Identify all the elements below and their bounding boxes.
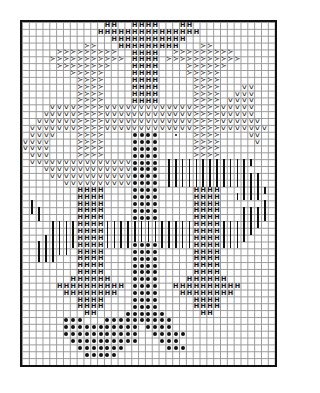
dot-stitch-symbol bbox=[131, 338, 138, 345]
dot-stitch-symbol bbox=[138, 242, 145, 249]
h-stitch-symbol: H bbox=[70, 290, 77, 297]
bar-stitch-symbol bbox=[248, 228, 255, 235]
dot-stitch-symbol bbox=[131, 145, 138, 152]
dot-stitch-symbol bbox=[70, 324, 77, 331]
dot-stitch-symbol bbox=[84, 351, 91, 358]
dot-stitch-symbol bbox=[131, 194, 138, 201]
dot-stitch-symbol bbox=[145, 159, 152, 166]
dot-stitch-symbol bbox=[125, 324, 132, 331]
h-stitch-symbol: H bbox=[186, 29, 193, 36]
dot-stitch-symbol bbox=[131, 248, 138, 255]
dot-stitch-symbol bbox=[145, 310, 152, 317]
dot-stitch-symbol bbox=[145, 269, 152, 276]
dot-stitch-symbol bbox=[145, 187, 152, 194]
dot-stitch-symbol bbox=[104, 351, 111, 358]
bar-stitch-symbol bbox=[234, 180, 241, 187]
dot-stitch-symbol bbox=[152, 152, 159, 159]
bar-stitch-symbol bbox=[186, 180, 193, 187]
dot-stitch-symbol bbox=[159, 310, 166, 317]
dot-stitch-symbol bbox=[63, 317, 70, 324]
dot-stitch-symbol bbox=[111, 317, 118, 324]
dot-stitch-symbol bbox=[166, 331, 173, 338]
dot-stitch-symbol bbox=[138, 303, 145, 310]
h-stitch-symbol: H bbox=[234, 283, 241, 290]
dot-stitch-symbol bbox=[90, 344, 97, 351]
bar-stitch-symbol bbox=[179, 180, 186, 187]
h-stitch-symbol: H bbox=[97, 29, 104, 36]
bar-stitch-symbol bbox=[254, 194, 261, 201]
dot-stitch-symbol bbox=[145, 290, 152, 297]
dot-stitch-symbol bbox=[111, 344, 118, 351]
dot-stitch-symbol bbox=[145, 255, 152, 262]
dot-stitch-symbol bbox=[145, 303, 152, 310]
h-stitch-symbol: H bbox=[111, 36, 118, 43]
dot-stitch-symbol bbox=[138, 248, 145, 255]
dot-stitch-symbol bbox=[131, 262, 138, 269]
dot-stitch-symbol bbox=[90, 351, 97, 358]
h-stitch-symbol: H bbox=[118, 43, 125, 50]
dot-stitch-symbol bbox=[152, 303, 159, 310]
bar-stitch-symbol bbox=[145, 235, 152, 242]
dot-stitch-symbol bbox=[131, 276, 138, 283]
dot-stitch-symbol bbox=[138, 152, 145, 159]
v-stitch-symbol: v bbox=[254, 139, 262, 146]
dot-stitch-symbol bbox=[84, 324, 91, 331]
dot-stitch-symbol bbox=[145, 276, 152, 283]
dot-stitch-symbol bbox=[166, 317, 173, 324]
dot-stitch-symbol bbox=[145, 242, 152, 249]
bar-stitch-symbol bbox=[220, 180, 227, 187]
dot-stitch-symbol bbox=[159, 324, 166, 331]
dot-stitch-symbol bbox=[111, 338, 118, 345]
chevron-stitch-symbol: ≻ bbox=[166, 56, 173, 63]
dot-stitch-symbol bbox=[131, 242, 138, 249]
chevron-stitch-symbol: ≻ bbox=[104, 63, 111, 70]
chevron-stitch-symbol: ≻ bbox=[63, 63, 70, 70]
chevron-stitch-symbol: ≻ bbox=[186, 70, 193, 77]
dot-stitch-symbol bbox=[111, 331, 118, 338]
dot-stitch-symbol bbox=[159, 317, 166, 324]
h-stitch-symbol: H bbox=[56, 283, 63, 290]
dot-stitch-symbol bbox=[152, 194, 159, 201]
dot-stitch-symbol bbox=[145, 180, 152, 187]
dot-stitch-symbol bbox=[152, 242, 159, 249]
dot-stitch-symbol bbox=[145, 194, 152, 201]
bar-stitch-symbol bbox=[248, 159, 255, 166]
bar-stitch-symbol bbox=[186, 242, 193, 249]
dot-stitch-symbol bbox=[97, 331, 104, 338]
dot-stitch-symbol bbox=[138, 317, 145, 324]
dot-stitch-symbol bbox=[63, 324, 70, 331]
bar-stitch-symbol bbox=[172, 180, 179, 187]
h-stitch-symbol: H bbox=[213, 303, 220, 310]
dot-stitch-symbol bbox=[118, 338, 125, 345]
dot-stitch-symbol bbox=[131, 187, 138, 194]
h-stitch-symbol: H bbox=[97, 303, 104, 310]
bar-stitch-symbol bbox=[70, 242, 77, 249]
dot-stitch-symbol bbox=[152, 262, 159, 269]
dot-stitch-symbol bbox=[152, 276, 159, 283]
dot-stitch-symbol bbox=[145, 152, 152, 159]
bar-stitch-symbol bbox=[172, 242, 179, 249]
dot-stitch-symbol bbox=[97, 351, 104, 358]
bar-stitch-symbol bbox=[261, 214, 268, 221]
chevron-stitch-symbol: ≻ bbox=[227, 56, 234, 63]
v-stitch-symbol: v bbox=[49, 132, 57, 139]
dot-stitch-symbol bbox=[138, 194, 145, 201]
dot-stitch-symbol bbox=[152, 255, 159, 262]
h-stitch-symbol: H bbox=[118, 283, 125, 290]
chevron-stitch-symbol: ≻ bbox=[220, 63, 227, 70]
dot-stitch-symbol bbox=[152, 310, 159, 317]
bar-stitch-symbol bbox=[227, 242, 234, 249]
dot-stitch-symbol bbox=[111, 351, 118, 358]
dot-stitch-symbol bbox=[138, 139, 145, 146]
dot-stitch-symbol bbox=[131, 173, 138, 180]
dot-stitch-symbol bbox=[131, 296, 138, 303]
dot-stitch-symbol bbox=[125, 331, 132, 338]
bar-stitch-symbol bbox=[234, 194, 241, 201]
dot-stitch-symbol bbox=[152, 269, 159, 276]
dot-stitch-symbol bbox=[138, 283, 145, 290]
h-stitch-symbol: H bbox=[179, 290, 186, 297]
h-stitch-symbol: H bbox=[193, 303, 200, 310]
dot-stitch-symbol bbox=[131, 303, 138, 310]
bar-stitch-symbol bbox=[138, 235, 145, 242]
h-stitch-symbol: H bbox=[90, 310, 97, 317]
